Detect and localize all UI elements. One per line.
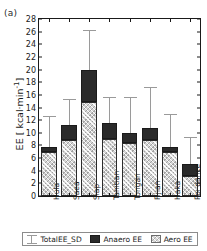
y-axis-tick-label: 2: [2, 179, 39, 188]
chart-legend: TotalEE_SDAnaero EEAero EE: [22, 232, 198, 246]
error-bar-cap: [83, 30, 96, 31]
y-axis-tick-label: 16: [2, 90, 39, 99]
anaero-swatch-icon: [90, 235, 100, 243]
legend-label: TotalEE_SD: [40, 235, 81, 244]
y-axis-tick-label: 18: [2, 78, 39, 87]
error-bar-cap: [164, 114, 177, 115]
x-axis-tick-label: Haka: [173, 181, 182, 200]
error-bar-line: [49, 116, 50, 147]
top-axis-tick-mark: [49, 19, 50, 22]
bar-segment-anaero: [122, 133, 138, 142]
x-axis-tick-label: Tongan: [133, 173, 142, 200]
bar-segment-anaero: [162, 147, 178, 152]
y-axis-tick-label: 4: [2, 166, 39, 175]
x-axis-tick-label: Hula: [52, 183, 61, 200]
y-axis-tick-label: 22: [2, 52, 39, 61]
top-axis-tick-mark: [130, 19, 131, 22]
x-axis-tick-label: Siap: [92, 184, 101, 200]
y-axis-tick-label: 28: [2, 15, 39, 24]
error-bar-cap: [63, 99, 76, 100]
y-axis-tick-label: 12: [2, 116, 39, 125]
x-axis-tick-label: Fijian: [153, 181, 162, 200]
error-bar-cap: [184, 137, 197, 138]
y-axis-tick-label: 0: [2, 192, 39, 201]
x-axis-tick-mark: [150, 193, 151, 196]
bar-segment-anaero: [81, 70, 97, 102]
x-axis-tick-mark: [190, 193, 191, 196]
top-axis-tick-mark: [109, 19, 110, 22]
x-axis-tick-label: Tahitian: [112, 171, 121, 200]
legend-item[interactable]: Aero EE: [151, 235, 193, 244]
top-axis-tick-mark: [190, 19, 191, 22]
y-axis-tick-label: 24: [2, 40, 39, 49]
legend-label: Aero EE: [164, 235, 193, 244]
bar-segment-anaero: [102, 123, 118, 139]
x-axis-tick-mark: [170, 193, 171, 196]
bar-segment-anaero: [142, 128, 158, 140]
legend-item[interactable]: Anaero EE: [90, 235, 141, 244]
top-axis-tick-mark: [69, 19, 70, 22]
error-bar-cap: [103, 97, 116, 98]
legend-label: Anaero EE: [103, 235, 141, 244]
error-bar-line: [170, 114, 171, 147]
y-axis-tick-label: 20: [2, 65, 39, 74]
legend-item[interactable]: TotalEE_SD: [27, 235, 81, 244]
error-bar-line: [150, 87, 151, 128]
bar-segment-aero: [81, 102, 97, 196]
top-axis-tick-mark: [89, 19, 90, 22]
error-bar-cap: [144, 87, 157, 88]
x-axis-tick-label: Poi dance: [193, 164, 202, 200]
y-axis-tick-label: 14: [2, 103, 39, 112]
bar-segment-anaero: [41, 147, 57, 152]
top-axis-tick-mark: [170, 19, 171, 22]
x-axis-tick-mark: [49, 193, 50, 196]
y-axis-tick-label: 8: [2, 141, 39, 150]
error-bar-icon: [27, 235, 37, 244]
bar-hula[interactable]: [41, 19, 57, 196]
y-axis-tick-label: 26: [2, 27, 39, 36]
error-bar-line: [69, 99, 70, 126]
error-bar-cap: [124, 97, 137, 98]
plot-inner: 0246810121416182022242628: [39, 19, 200, 196]
x-axis-tick-mark: [89, 193, 90, 196]
x-axis-tick-mark: [69, 193, 70, 196]
error-bar-line: [130, 97, 131, 133]
top-axis-tick-mark: [150, 19, 151, 22]
chart-figure: (a) EE [ kcal·min-1] 0246810121416182022…: [0, 0, 207, 251]
x-axis-tick-mark: [109, 193, 110, 196]
error-bar-cap: [43, 116, 56, 117]
x-axis-tick-label: Saea: [72, 181, 81, 200]
y-axis-tick-label: 6: [2, 154, 39, 163]
error-bar-line: [109, 97, 110, 124]
bar-haka[interactable]: [162, 19, 178, 196]
error-bar-line: [190, 137, 191, 165]
bar-segment-anaero: [61, 125, 77, 140]
x-axis-tick-mark: [130, 193, 131, 196]
error-bar-line: [89, 30, 90, 70]
y-axis-tick-label: 10: [2, 128, 39, 137]
aero-swatch-icon: [151, 235, 161, 243]
